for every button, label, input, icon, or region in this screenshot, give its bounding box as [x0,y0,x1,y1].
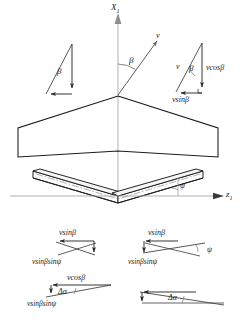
z1-axis-label: z1 [226,190,233,201]
sideslip-angle-label: β [129,56,133,65]
vector-group-left-top-label: vsinβ [59,229,76,237]
aerodynamic-wing-diagram: X1 v β β v β vcosβ vsinβ ψ z1 vsinβ vsin… [0,0,241,331]
triangle-left-bottom-bottom-label: vsinβsinψ [27,300,56,308]
vector-group-right-angle-label: ψ [207,246,212,254]
x1-axis-subscript: 1 [117,8,120,14]
velocity-vector-label: v [156,32,160,40]
vcos-beta-label: vcosβ [206,64,224,72]
velocity-vector-v [118,41,157,95]
vector-group-right-top-label: vsinβ [148,229,165,237]
triangle-right-bottom [140,292,224,305]
triangle-left-top-angle-label: β [57,67,61,76]
dihedral-angle-label: ψ [180,182,185,190]
x1-axis-line [115,13,122,200]
vector-group-right [143,241,205,256]
triangle-right-top-angle-label: β [189,64,193,73]
triangle-left-bottom-top-label: vcosβ [67,274,85,282]
vsin-beta-label-top: vsinβ [172,96,189,104]
delta-alpha-label-right: Δα [168,294,177,302]
vector-group-right-bottom-label: vsinβsinψ [128,258,157,266]
x1-axis-label: X1 [111,3,120,14]
vector-group-left-bottom-label: vsinβsinψ [32,258,61,266]
z1-axis-subscript: 1 [230,195,233,201]
delta-alpha-label-left: Δα [58,288,67,296]
diagram-vector-graphics [0,0,241,331]
triangle-left-bottom [46,285,111,297]
triangle-right-top-hypotenuse-label: v [176,63,180,71]
vector-group-left [56,241,96,255]
